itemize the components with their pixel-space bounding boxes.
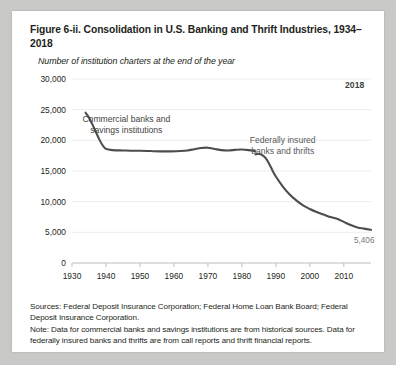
figure-note: Note: Data for commercial banks and savi… xyxy=(30,324,374,347)
end-year-label: 2018 xyxy=(345,80,364,90)
y-axis-tick-label: 5,000 xyxy=(45,227,66,237)
chart-x-axis xyxy=(72,263,371,267)
federally-insured-label: Federally insuredbanks and thrifts xyxy=(250,135,316,156)
y-axis-tick-label: 10,000 xyxy=(40,197,66,207)
y-axis-tick-label: 0 xyxy=(61,258,66,268)
data-series-line xyxy=(255,154,371,230)
y-axis-tick-label: 20,000 xyxy=(40,135,66,145)
x-axis-tick-label: 2000 xyxy=(301,271,320,281)
x-axis-tick-label: 1930 xyxy=(63,271,82,281)
figure-title: Figure 6-ii. Consolidation in U.S. Banki… xyxy=(30,23,368,50)
chart-plot-area: 05,00010,00015,00020,00025,00030,000 193… xyxy=(24,69,376,295)
y-axis-tick-label: 30,000 xyxy=(40,74,66,84)
x-axis-tick-label: 1960 xyxy=(165,271,184,281)
chart-gridlines xyxy=(72,79,371,232)
end-value-label: 5,406 xyxy=(354,236,375,245)
y-axis-tick-label: 25,000 xyxy=(40,105,66,115)
x-axis-tick-label: 2010 xyxy=(334,271,353,281)
commercial-banks-label: Commercial banks andsavings institutions xyxy=(82,114,170,135)
x-axis-tick-label: 1980 xyxy=(233,271,252,281)
y-axis-tick-label: 15,000 xyxy=(40,166,66,176)
x-axis-tick-label: 1950 xyxy=(131,271,150,281)
x-axis-tick-label: 1940 xyxy=(97,271,116,281)
chart-y-axis-labels: 05,00010,00015,00020,00025,00030,000 xyxy=(40,74,66,268)
x-axis-tick-label: 1970 xyxy=(199,271,218,281)
figure-sources: Sources: Federal Deposit Insurance Corpo… xyxy=(30,301,374,324)
line-chart: 05,00010,00015,00020,00025,00030,000 193… xyxy=(24,69,376,295)
figure-card: Figure 6-ii. Consolidation in U.S. Banki… xyxy=(12,11,384,352)
figure-subtitle: Number of institution charters at the en… xyxy=(38,56,368,66)
chart-annotations: Commercial banks andsavings institutions… xyxy=(82,80,374,245)
x-axis-tick-label: 1990 xyxy=(267,271,286,281)
figure-footer: Sources: Federal Deposit Insurance Corpo… xyxy=(30,301,374,346)
chart-x-axis-labels: 193019401950196019701980199020002010 xyxy=(63,271,354,281)
